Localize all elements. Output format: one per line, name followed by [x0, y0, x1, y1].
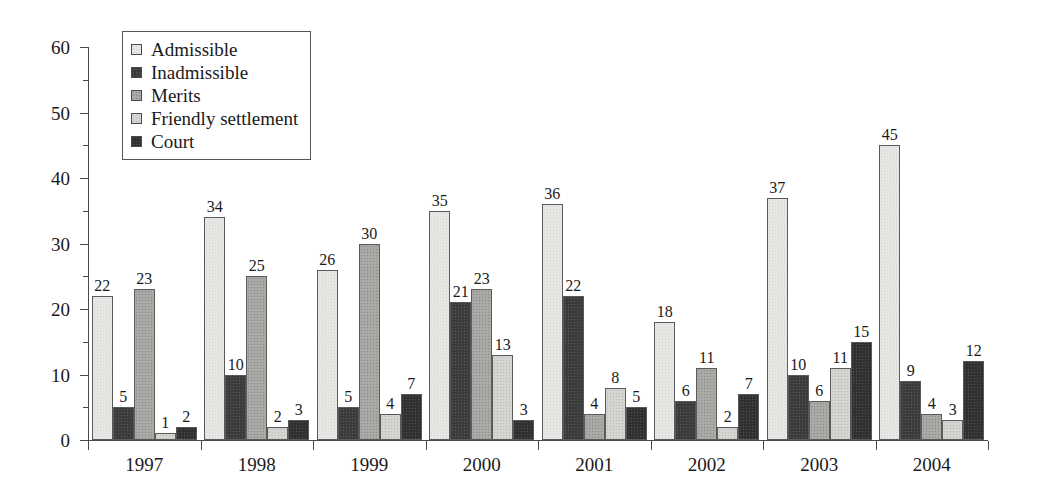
bar: 9: [900, 381, 921, 440]
bar-value-label: 25: [249, 258, 265, 274]
bar-value-label: 2: [274, 409, 282, 425]
bar: 10: [788, 375, 809, 441]
bar: 12: [963, 361, 984, 440]
bar-value-label: 5: [344, 389, 352, 405]
legend-swatch-icon: [131, 44, 142, 55]
legend-label: Merits: [151, 86, 201, 105]
x-axis-category-label: 2003: [759, 455, 879, 474]
bar: 8: [605, 388, 626, 440]
bar: 22: [563, 296, 584, 440]
bar: 15: [851, 342, 872, 440]
bar: 35: [429, 211, 450, 440]
y-tick-major: [80, 113, 88, 114]
y-tick-minor: [83, 80, 88, 81]
bar-group: 1861127: [654, 47, 759, 440]
bar: 21: [450, 302, 471, 440]
y-tick-label: 60: [30, 38, 70, 57]
bar: 6: [809, 401, 830, 440]
bar: 2: [176, 427, 197, 440]
bar-value-label: 1: [161, 415, 169, 431]
legend-item: Merits: [131, 84, 298, 107]
bar: 23: [471, 289, 492, 440]
bar: 3: [942, 420, 963, 440]
bar-group: 371061115: [767, 47, 872, 440]
bar-value-label: 23: [136, 271, 152, 287]
bar: 4: [380, 414, 401, 440]
bar: 3: [288, 420, 309, 440]
bar: 7: [738, 394, 759, 440]
bar: 10: [225, 375, 246, 441]
y-tick-label: 50: [30, 104, 70, 123]
bar-value-label: 4: [386, 396, 394, 412]
bar-group: 3622485: [542, 47, 647, 440]
y-tick-major: [80, 440, 88, 441]
y-tick-minor: [83, 276, 88, 277]
chart-legend: AdmissibleInadmissibleMeritsFriendly set…: [122, 31, 311, 160]
bar: 45: [879, 145, 900, 440]
bar: 11: [696, 368, 717, 440]
x-axis-category-label: 2000: [422, 455, 542, 474]
bar: 11: [830, 368, 851, 440]
legend-item: Inadmissible: [131, 61, 298, 84]
bar: 6: [675, 401, 696, 440]
bar-value-label: 4: [928, 396, 936, 412]
bar-value-label: 22: [94, 278, 110, 294]
bar-chart: 0102030405060 19971998199920002001200220…: [0, 0, 1040, 502]
bar: 2: [717, 427, 738, 440]
bar-value-label: 6: [682, 383, 690, 399]
bar-value-label: 9: [907, 363, 915, 379]
bar-value-label: 2: [182, 409, 190, 425]
bar: 5: [626, 407, 647, 440]
x-tick: [538, 441, 539, 450]
x-tick: [201, 441, 202, 450]
bar: 4: [921, 414, 942, 440]
bar: 36: [542, 204, 563, 440]
bar-value-label: 45: [882, 127, 898, 143]
bar-value-label: 12: [966, 343, 982, 359]
y-tick-minor: [83, 407, 88, 408]
legend-label: Inadmissible: [151, 63, 248, 82]
bar-value-label: 23: [474, 271, 490, 287]
bar: 1: [155, 433, 176, 440]
bar-value-label: 18: [657, 304, 673, 320]
y-tick-label: 0: [30, 431, 70, 450]
legend-item: Admissible: [131, 38, 298, 61]
bar: 18: [654, 322, 675, 440]
bar: 26: [317, 270, 338, 440]
legend-item: Friendly settlement: [131, 107, 298, 130]
y-tick-minor: [83, 211, 88, 212]
bar-value-label: 3: [949, 402, 957, 418]
bar-value-label: 4: [590, 396, 598, 412]
y-tick-major: [80, 47, 88, 48]
y-tick-label: 20: [30, 300, 70, 319]
x-tick: [876, 441, 877, 450]
x-tick: [88, 441, 89, 450]
bar-value-label: 7: [407, 376, 415, 392]
bar: 25: [246, 276, 267, 440]
y-tick-label: 40: [30, 169, 70, 188]
x-axis-category-label: 1997: [84, 455, 204, 474]
x-axis-category-label: 2004: [872, 455, 992, 474]
bar: 22: [92, 296, 113, 440]
y-tick-minor: [83, 145, 88, 146]
y-tick-major: [80, 244, 88, 245]
y-tick-major: [80, 178, 88, 179]
legend-label: Admissible: [151, 40, 238, 59]
bar-value-label: 7: [745, 376, 753, 392]
bar-group: 4594312: [879, 47, 984, 440]
bar-value-label: 13: [495, 337, 511, 353]
bar-value-label: 11: [699, 350, 714, 366]
legend-label: Friendly settlement: [151, 109, 298, 128]
legend-item: Court: [131, 130, 298, 153]
bar-value-label: 11: [833, 350, 848, 366]
bar-value-label: 8: [611, 370, 619, 386]
x-tick: [313, 441, 314, 450]
y-tick-label: 10: [30, 366, 70, 385]
legend-swatch-icon: [131, 113, 142, 124]
legend-swatch-icon: [131, 90, 142, 101]
bar-value-label: 30: [361, 226, 377, 242]
x-tick: [651, 441, 652, 450]
bar-value-label: 21: [453, 284, 469, 300]
bar: 5: [113, 407, 134, 440]
bar-value-label: 6: [815, 383, 823, 399]
